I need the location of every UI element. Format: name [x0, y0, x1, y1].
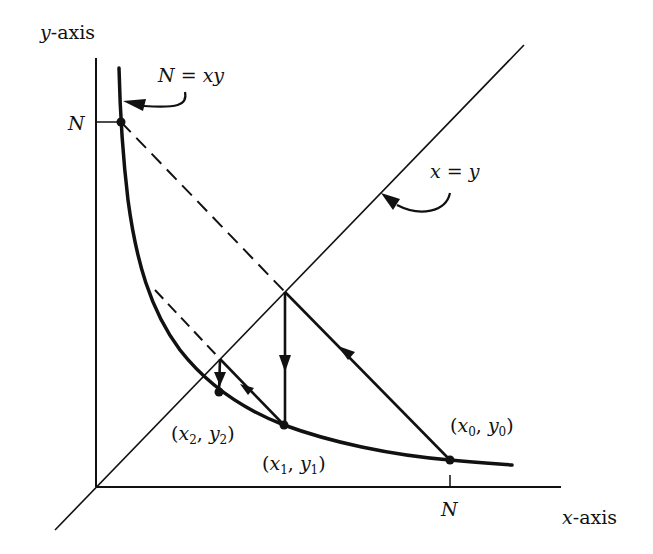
arrow-up-left-icon: [338, 346, 355, 360]
arrowhead-diagonal-icon: [381, 193, 400, 210]
point-x1y1: [280, 421, 289, 430]
hyperbola-curve: [119, 68, 512, 465]
y-tick-label: N: [67, 112, 86, 134]
dashed-line-N-to-diagonal: [121, 122, 285, 292]
point-label-x2y2: (x2, y2): [171, 422, 235, 447]
arrowhead-hyperbola-icon: [123, 99, 146, 111]
point-label-x1y1: (x1, y1): [262, 452, 326, 477]
point-x0y0: [446, 456, 455, 465]
point-label-x0y0: (x0, y0): [450, 414, 514, 439]
arrow-down-small-icon: [214, 372, 226, 386]
point-N-on-y: [117, 118, 126, 127]
point-x2y2: [215, 388, 224, 397]
line-x1y1-to-diagonal: [220, 359, 284, 425]
pointer-arrow-diagonal: [397, 193, 450, 211]
arrow-down-icon: [279, 355, 291, 372]
hyperbola-label: N = xy: [157, 64, 224, 86]
x-tick-label: N: [440, 498, 459, 520]
iteration-diagram: y-axis N N = xy x = y (x0, y0) (x1, y1) …: [0, 0, 653, 554]
diagonal-label: x = y: [430, 160, 480, 182]
x-axis-label: x-axis: [562, 506, 617, 528]
y-axis-label: y-axis: [39, 21, 95, 43]
pointer-arrow-hyperbola: [144, 92, 185, 107]
